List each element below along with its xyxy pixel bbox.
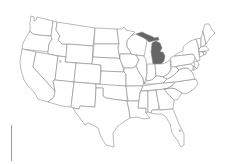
scale-bar bbox=[11, 125, 12, 161]
us-state-map bbox=[0, 0, 227, 164]
state-FL[interactable] bbox=[151, 109, 184, 147]
state-WA[interactable] bbox=[30, 16, 53, 36]
state-WY[interactable] bbox=[65, 44, 93, 64]
state-ND[interactable] bbox=[94, 28, 119, 44]
state-SD[interactable] bbox=[93, 44, 120, 59]
state-MT[interactable] bbox=[56, 22, 95, 46]
state-MI-lower[interactable] bbox=[151, 41, 165, 64]
state-CO[interactable] bbox=[74, 63, 101, 84]
state-NM[interactable] bbox=[71, 82, 96, 109]
state-KS[interactable] bbox=[100, 71, 126, 86]
states-layer bbox=[20, 16, 215, 147]
